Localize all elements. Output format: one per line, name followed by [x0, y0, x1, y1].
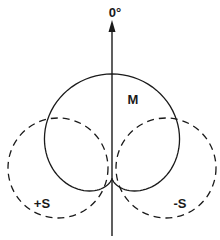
- side-plus-lobe: [8, 118, 108, 218]
- side-plus-label: +S: [34, 196, 51, 211]
- axis-arrowhead-icon: [109, 20, 116, 32]
- side-minus-label: -S: [174, 196, 187, 211]
- axis-label: 0°: [109, 5, 121, 20]
- mid-label: M: [128, 92, 139, 107]
- mid-side-polar-diagram: 0° M +S -S: [0, 0, 220, 240]
- side-minus-lobe: [116, 118, 216, 218]
